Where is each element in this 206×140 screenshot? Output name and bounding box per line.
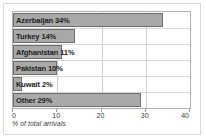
bar-label: Afghanistan 11% xyxy=(16,44,75,60)
bar-row[interactable]: Pakistan 10% xyxy=(13,60,190,76)
plot-area: Azerbaijan 34%Turkey 14%Afghanistan 11%P… xyxy=(12,11,191,109)
chart-frame: Azerbaijan 34%Turkey 14%Afghanistan 11%P… xyxy=(3,3,201,135)
bar-label: Azerbaijan 34% xyxy=(16,12,70,28)
x-axis-tick-label: 20 xyxy=(97,112,105,119)
bar-row[interactable]: Other 29% xyxy=(13,92,190,108)
bar-label: Kuwait 2% xyxy=(16,76,53,92)
x-axis-tick-label: 40 xyxy=(181,112,189,119)
bar-row[interactable]: Afghanistan 11% xyxy=(13,44,190,60)
x-axis-tick-label: 10 xyxy=(52,112,60,119)
bar-row[interactable]: Kuwait 2% xyxy=(13,76,190,92)
x-axis-tick-label: 0 xyxy=(12,112,16,119)
x-axis-tick-label: 30 xyxy=(141,112,149,119)
bar-label: Turkey 14% xyxy=(16,28,56,44)
bar-label: Other 29% xyxy=(16,92,52,108)
bar-label: Pakistan 10% xyxy=(16,60,63,76)
x-axis-title: % of total arrivals xyxy=(12,120,66,127)
bar-row[interactable]: Turkey 14% xyxy=(13,28,190,44)
bar-row[interactable]: Azerbaijan 34% xyxy=(13,12,190,28)
